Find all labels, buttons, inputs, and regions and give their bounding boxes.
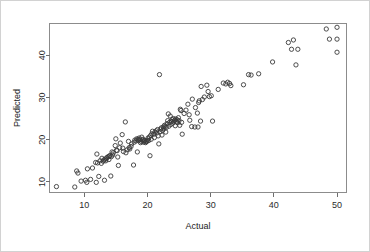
data-point bbox=[123, 120, 127, 124]
y-tick-label: 40 bbox=[37, 50, 47, 60]
data-point bbox=[294, 63, 298, 67]
data-point bbox=[286, 40, 290, 44]
x-tick-label: 10 bbox=[79, 200, 89, 210]
data-point bbox=[157, 72, 161, 76]
data-point bbox=[120, 132, 124, 136]
x-tick-label: 50 bbox=[332, 200, 342, 210]
data-point bbox=[335, 25, 339, 29]
data-point bbox=[114, 137, 118, 141]
data-point bbox=[195, 111, 199, 115]
data-point bbox=[327, 37, 331, 41]
data-point bbox=[88, 177, 92, 181]
y-axis-title: Predicted bbox=[12, 89, 22, 127]
data-point bbox=[241, 83, 245, 87]
data-point bbox=[198, 119, 202, 123]
data-point bbox=[113, 143, 117, 147]
data-point bbox=[109, 174, 113, 178]
data-point bbox=[193, 105, 197, 109]
data-point bbox=[79, 179, 83, 183]
data-point bbox=[102, 178, 106, 182]
x-tick-label: 30 bbox=[206, 200, 216, 210]
y-tick-label: 30 bbox=[37, 92, 47, 102]
data-point bbox=[73, 185, 77, 189]
data-point bbox=[324, 27, 328, 31]
data-point bbox=[95, 152, 99, 156]
data-point bbox=[180, 132, 184, 136]
data-point bbox=[186, 102, 190, 106]
data-point bbox=[187, 113, 191, 117]
data-points bbox=[54, 25, 339, 189]
x-tick-label: 40 bbox=[269, 200, 279, 210]
x-axis-ticks: 1020304050 bbox=[79, 193, 342, 210]
data-point bbox=[157, 142, 161, 146]
y-tick-label: 20 bbox=[37, 135, 47, 145]
data-point bbox=[94, 180, 98, 184]
data-point bbox=[116, 163, 120, 167]
data-point bbox=[188, 118, 192, 122]
y-tick-label: 10 bbox=[37, 177, 47, 187]
data-point bbox=[289, 47, 293, 51]
data-point bbox=[148, 154, 152, 158]
data-point bbox=[335, 37, 339, 41]
data-point bbox=[118, 141, 122, 145]
data-point bbox=[196, 125, 200, 129]
data-point bbox=[291, 38, 295, 42]
data-point bbox=[257, 72, 261, 76]
data-point bbox=[199, 84, 203, 88]
y-axis-ticks: 10203040 bbox=[37, 50, 50, 187]
data-point bbox=[54, 184, 58, 188]
data-point bbox=[131, 163, 135, 167]
plot-canvas: 1020304050 10203040 Actual Predicted bbox=[1, 1, 370, 252]
data-point bbox=[216, 87, 220, 91]
scatter-plot-figure: 1020304050 10203040 Actual Predicted bbox=[0, 0, 370, 252]
data-point bbox=[206, 89, 210, 93]
data-point bbox=[90, 166, 94, 170]
data-point bbox=[97, 174, 101, 178]
data-point bbox=[85, 167, 89, 171]
data-point bbox=[270, 60, 274, 64]
data-point bbox=[296, 47, 300, 51]
data-point bbox=[135, 150, 139, 154]
x-axis-title: Actual bbox=[185, 221, 210, 231]
data-point bbox=[210, 119, 214, 123]
data-point bbox=[190, 97, 194, 101]
x-tick-label: 20 bbox=[142, 200, 152, 210]
data-point bbox=[184, 108, 188, 112]
data-point bbox=[205, 83, 209, 87]
data-point bbox=[335, 50, 339, 54]
data-point bbox=[116, 155, 120, 159]
